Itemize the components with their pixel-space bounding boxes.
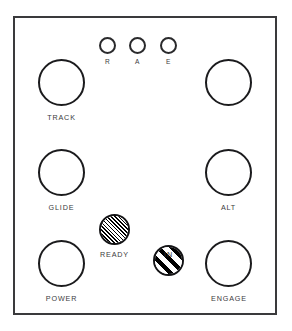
knob-engage-label: ENGAGE xyxy=(194,295,264,302)
indicator-a[interactable] xyxy=(129,37,146,54)
control-panel: R A E TRACK GLIDE ALT READY IN POWER xyxy=(0,0,292,331)
indicator-r-label: R xyxy=(91,59,124,66)
indicator-e-label: E xyxy=(152,59,185,66)
indicator-r-lamp[interactable] xyxy=(99,37,116,54)
knob-glide-label: GLIDE xyxy=(31,204,92,211)
knob-alt[interactable] xyxy=(205,149,252,196)
indicator-a-label: A xyxy=(121,59,154,66)
knob-track-label: TRACK xyxy=(31,114,92,121)
lamp-ready[interactable] xyxy=(99,214,130,245)
panel-frame: R A E TRACK GLIDE ALT READY IN POWER xyxy=(13,16,277,315)
knob-glide[interactable] xyxy=(38,149,85,196)
indicator-e[interactable] xyxy=(160,37,177,54)
knob-alt-label: ALT xyxy=(198,204,259,211)
lamp-in-label: IN xyxy=(138,251,199,258)
lamp-ready-label: READY xyxy=(84,251,145,258)
lamp-ready-hatch xyxy=(99,214,130,245)
knob-power[interactable] xyxy=(38,240,85,287)
knob-track[interactable] xyxy=(38,59,85,106)
indicator-a-lamp[interactable] xyxy=(129,37,146,54)
knob-engage[interactable] xyxy=(205,240,252,287)
indicator-r[interactable] xyxy=(99,37,116,54)
indicator-e-lamp[interactable] xyxy=(160,37,177,54)
knob-unlabeled[interactable] xyxy=(205,59,252,106)
knob-power-label: POWER xyxy=(31,295,92,302)
